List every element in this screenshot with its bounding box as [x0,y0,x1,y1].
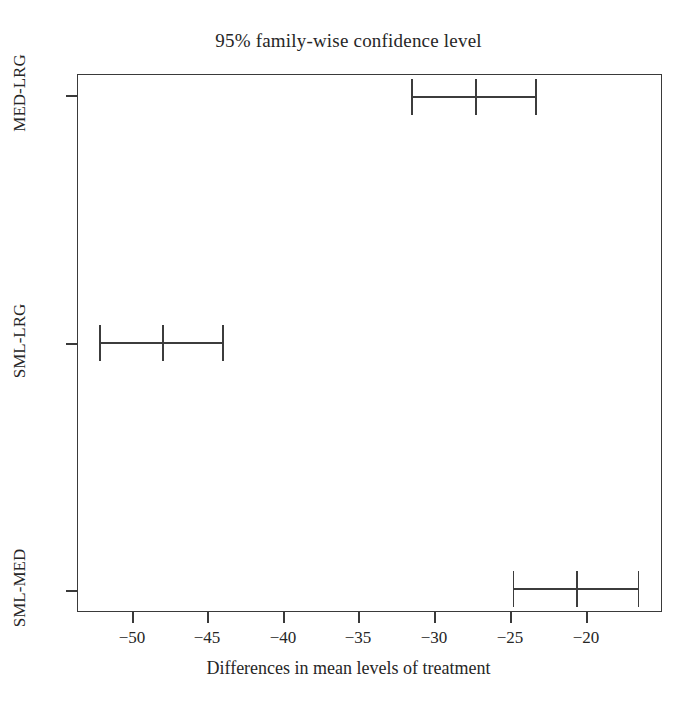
x-tick-minus-20 [586,612,588,623]
x-tick-label-minus-40: −40 [270,628,297,648]
interval-lower-cap [513,571,515,607]
x-tick-label-minus-50: −50 [119,628,146,648]
x-axis-title: Differences in mean levels of treatment [0,658,697,679]
x-tick-minus-25 [510,612,512,623]
y-tick-sml-lrg [66,343,77,345]
y-tick-sml-med [66,590,77,592]
x-tick-minus-40 [283,612,285,623]
x-tick-minus-30 [434,612,436,623]
interval-lower-cap [99,325,101,361]
y-tick-label-sml-med: SML-MED [10,538,30,638]
interval-upper-cap [222,325,224,361]
x-tick-label-minus-25: −25 [497,628,524,648]
x-tick-label-minus-20: −20 [573,628,600,648]
interval-lower-cap [411,79,413,115]
interval-estimate-mark [576,571,578,607]
x-tick-label-minus-45: −45 [194,628,221,648]
x-tick-minus-50 [132,612,134,623]
x-tick-minus-35 [358,612,360,623]
interval-estimate-mark [475,79,477,115]
interval-estimate-mark [162,325,164,361]
interval-upper-cap [638,571,640,607]
y-tick-med-lrg [66,95,77,97]
x-tick-minus-45 [207,612,209,623]
x-tick-label-minus-35: −35 [345,628,372,648]
chart-title: 95% family-wise confidence level [0,30,697,52]
y-tick-label-sml-lrg: SML-LRG [10,291,30,391]
x-tick-label-minus-30: −30 [421,628,448,648]
y-tick-label-med-lrg: MED-LRG [10,43,30,143]
interval-upper-cap [535,79,537,115]
confidence-interval-chart: 95% family-wise confidence level MED-LRG… [0,0,697,712]
